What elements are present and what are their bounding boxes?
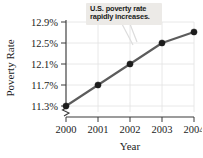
x-tick-label-2004: 2004	[184, 124, 203, 135]
x-tick-label-2000: 2000	[56, 124, 77, 135]
data-point-2002	[127, 61, 133, 67]
data-point-2000	[63, 103, 69, 109]
y-tick-label-12-1: 12.1%	[31, 59, 58, 70]
x-tick-label-2001: 2001	[88, 124, 109, 135]
x-axis	[66, 117, 194, 122]
x-tick-label-2002: 2002	[120, 124, 141, 135]
data-point-2001	[95, 82, 101, 88]
y-tick-labels: 12.9% 12.5% 12.1% 11.7% 11.3%	[31, 17, 58, 112]
y-tick-label-12-5: 12.5%	[31, 38, 58, 49]
y-tick-label-12-9: 12.9%	[31, 17, 58, 28]
y-axis-title: Poverty Rate	[4, 39, 16, 96]
y-tick-label-11-3: 11.3%	[31, 101, 58, 112]
x-axis-title: Year	[120, 140, 141, 152]
data-point-2003	[159, 40, 165, 46]
callout-annotation: U.S. poverty rate rapidly increases.	[86, 3, 162, 25]
data-point-2004	[191, 29, 197, 35]
poverty-rate-chart-figure: 12.9% 12.5% 12.1% 11.7% 11.3% 2000 2001 …	[0, 0, 202, 158]
x-tick-labels: 2000 2001 2002 2003 2004	[56, 124, 203, 135]
callout-tail	[122, 24, 137, 45]
y-axis	[61, 20, 66, 106]
callout-line-2: rapidly increases.	[90, 13, 159, 21]
x-tick-label-2003: 2003	[152, 124, 173, 135]
y-tick-label-11-7: 11.7%	[31, 80, 58, 91]
